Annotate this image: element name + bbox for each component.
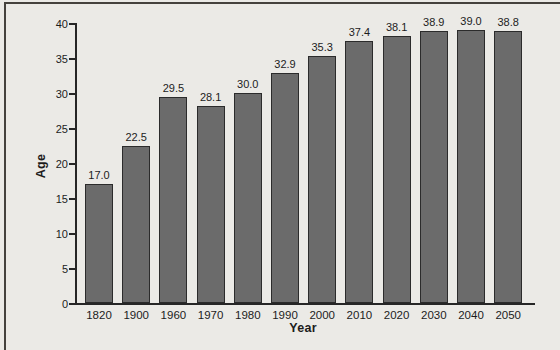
y-tick-label: 0 [36,297,68,311]
y-tick-mark [69,128,75,130]
bar-2040 [457,30,485,303]
y-tick-label: 40 [36,17,68,31]
y-tick-mark [69,58,75,60]
y-tick-mark [69,268,75,270]
figure: Age 0510152025303540 17.022.529.528.130.… [0,0,560,350]
y-tick-mark [69,93,75,95]
y-tick-label: 25 [36,122,68,136]
bar-2050 [494,31,522,303]
y-tick-label: 30 [36,87,68,101]
y-tick-label: 20 [36,157,68,171]
y-tick-mark [69,198,75,200]
y-tick-label: 10 [36,227,68,241]
bar-2030 [420,31,448,303]
y-tick-mark [69,303,75,305]
bar-value-label: 30.0 [226,78,270,90]
bar-value-label: 17.0 [77,169,121,181]
x-axis-line [75,303,535,305]
x-tick-label: 2050 [486,309,530,321]
y-tick-mark [69,163,75,165]
y-tick-label: 15 [36,192,68,206]
frame-left-border [4,2,6,350]
bar-value-label: 22.5 [114,131,158,143]
bar-value-label: 38.8 [486,16,530,28]
bar-2000 [308,56,336,303]
bar-1990 [271,73,299,303]
bar-1980 [234,93,262,303]
bar-2020 [383,36,411,303]
bar-2010 [345,41,373,303]
y-tick-mark [69,23,75,25]
bar-value-label: 35.3 [300,41,344,53]
y-tick-label: 5 [36,262,68,276]
frame-top-border [4,2,560,4]
bar-1820 [85,184,113,303]
bar-1960 [159,97,187,304]
bar-1900 [122,146,150,304]
bar-value-label: 32.9 [263,58,307,70]
y-tick-label: 35 [36,52,68,66]
plot-area: 17.022.529.528.130.032.935.337.438.138.9… [77,23,533,303]
bar-1970 [197,106,225,303]
bar-value-label: 28.1 [189,91,233,103]
x-axis-title: Year [281,321,325,335]
y-tick-mark [69,233,75,235]
